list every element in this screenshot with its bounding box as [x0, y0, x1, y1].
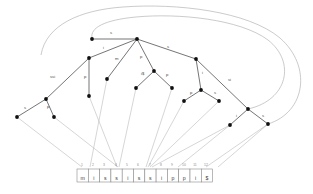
leaf-pointer-9 — [152, 125, 230, 167]
leaf-pointer-3 — [90, 79, 107, 167]
edge-si-to-left-leaf — [17, 99, 46, 117]
edge-label: p — [166, 72, 169, 77]
string-cell-boxes — [77, 169, 213, 182]
leaf-pointer-10 — [206, 124, 268, 167]
edge-label-group: s i s m p ssi p i$ p i si p s s p i s — [24, 30, 264, 118]
node-is-leaf — [134, 86, 138, 90]
node-pi-leaf — [87, 94, 91, 98]
edge-label: m — [115, 56, 119, 61]
edge-label: i — [236, 113, 237, 118]
string-index: 4 — [115, 163, 117, 167]
leaf-pointer-12 — [178, 125, 230, 167]
suffix-link-arc-outer — [41, 6, 301, 124]
node-p — [152, 69, 156, 73]
edge-s-to-si2 — [196, 59, 248, 109]
string-char: i — [195, 175, 196, 181]
edge-label: ssi — [50, 74, 55, 79]
string-index: 2 — [92, 163, 94, 167]
node-si — [44, 97, 48, 101]
node-ssi-right-leaf — [52, 115, 56, 119]
leaf-pointer-1 — [17, 117, 82, 167]
edge-label: i$ — [141, 71, 145, 76]
string-index: 10 — [182, 163, 186, 167]
leaf-pointer-7 — [148, 101, 184, 167]
edge-s-to-i2 — [196, 59, 201, 90]
string-index: 6 — [137, 163, 139, 167]
node-s3-leaf — [266, 122, 270, 126]
node-i2 — [199, 88, 203, 92]
string-index: 11 — [193, 163, 197, 167]
leaf-pointer-8 — [150, 101, 219, 167]
string-char: s — [138, 175, 141, 181]
suffix-link-arcs — [41, 6, 301, 124]
node-pp-leaf — [170, 86, 174, 90]
edge-i2-to-s2 — [201, 90, 219, 101]
string-index: 3 — [103, 163, 105, 167]
edge-label: s — [262, 113, 264, 118]
node-top-left — [90, 37, 94, 41]
string-index-labels: 1 2 3 4 5 6 7 8 9 10 11 12 — [81, 163, 208, 167]
diagram-canvas: s i s m p ssi p i$ p i si p s s p i s 1 … — [0, 0, 313, 194]
edge-label: p — [140, 54, 143, 59]
edge-p-to-pp — [154, 71, 172, 88]
string-index: 12 — [204, 163, 208, 167]
edge-label: s — [24, 105, 26, 110]
edge-label: p — [190, 90, 193, 95]
string-index: 5 — [126, 163, 128, 167]
edge-si2-to-i3 — [230, 109, 248, 125]
edge-label: i — [202, 70, 203, 75]
string-index: 9 — [171, 163, 173, 167]
edge-label: p — [84, 74, 87, 79]
string-char: i — [127, 175, 128, 181]
edge-label: i — [103, 45, 104, 50]
edge-label: s — [167, 44, 169, 49]
tree-edges — [17, 39, 268, 125]
string-char: $ — [205, 175, 208, 181]
suffix-link-arc-inner — [92, 16, 285, 109]
node-si2 — [246, 107, 250, 111]
edge-label: s — [214, 90, 216, 95]
leaf-pointer-11 — [218, 124, 268, 167]
node-s — [194, 57, 198, 61]
string-char: p — [183, 175, 186, 181]
node-root — [135, 37, 139, 41]
string-char: s — [149, 175, 152, 181]
edge-si2-to-s3 — [248, 109, 268, 124]
string-index: 8 — [160, 163, 162, 167]
string-char: i — [161, 175, 162, 181]
leaf-pointer-2 — [54, 117, 118, 167]
string-char: s — [115, 175, 118, 181]
node-m-leaf — [105, 77, 109, 81]
node-i — [87, 56, 91, 60]
string-index: 1 — [81, 163, 83, 167]
node-s2-leaf — [217, 99, 221, 103]
leaf-pointer-4 — [89, 96, 117, 167]
string-char: i — [93, 175, 94, 181]
suffix-tree-figure: s i s m p ssi p i$ p i si p s s p i s 1 … — [0, 0, 313, 194]
string-index: 7 — [149, 163, 151, 167]
leaf-pointer-6 — [146, 88, 172, 167]
edge-p-to-is — [136, 71, 154, 88]
string-char: s — [104, 175, 107, 181]
node-i3-leaf — [228, 123, 232, 127]
node-ssi-left-leaf — [15, 115, 19, 119]
string-char: m — [80, 175, 84, 181]
leaf-pointer-5 — [119, 88, 136, 167]
edge-i2-to-p2 — [184, 90, 201, 101]
edge-label: s — [110, 30, 112, 35]
edge-label: si — [228, 77, 231, 82]
node-p2-leaf — [182, 99, 186, 103]
string-char: p — [172, 175, 175, 181]
